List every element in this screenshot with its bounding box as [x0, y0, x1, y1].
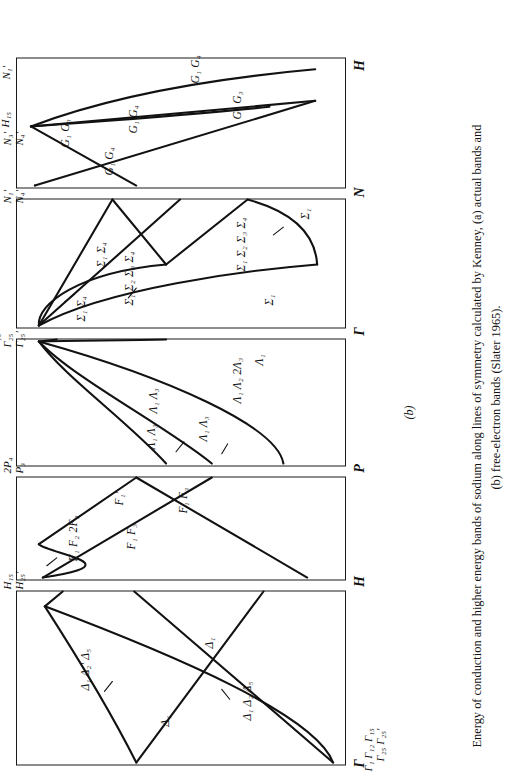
panel-delta: Δ₁ Δ₂ Δ₅ Δ₁ Δ₁ Δ₁ Δ₂' Δ₅ [16, 590, 346, 765]
levels-gamma-bottom-row1: Γ₁ Γ₁₂ Γ₁₅ [362, 728, 374, 771]
caption-line-1: Energy of conduction and higher energy b… [470, 124, 484, 747]
axis-letter-n: N [352, 187, 368, 197]
panel-g: G₁ G₄ G₁ G₃ G₁ G₄ G₁ G₃ G₁ G₄ [16, 57, 346, 188]
levels-h-topright-row2: H₁₅ H₂₅' [0, 29, 1, 65]
label-sig-14-b: Σ₁ Σ₄ [95, 241, 107, 267]
axis-letter-h-2: H [352, 60, 368, 71]
curve-sig-2 [39, 199, 180, 325]
label-lam-1: Λ₁ [253, 354, 265, 365]
curve-sig-5 [112, 199, 166, 264]
curve-delta-4 [136, 591, 263, 762]
leader-lam-b [222, 443, 228, 453]
label-g-13-b: G₁ G₃ [231, 91, 243, 119]
label-f-13-lower: F₁ F₃ [177, 487, 189, 513]
levels-n-right: N₁ N₁' [0, 65, 13, 79]
levels-n-right-row2: N₁' [0, 65, 12, 79]
levels-n-mid-row3: N₃' [1, 131, 13, 145]
panel-f: F₁ F₂ 2F₃ F₁ F₃ F₁ F₃ F₁' [16, 476, 346, 580]
label-g-14-c: G₁ G₄ [189, 55, 201, 83]
levels-h-left-row4: H₂₅' [13, 571, 25, 589]
label-sig-multi-a: Σ₁ Σ₂ Σ₃ Σ₄ [123, 251, 135, 305]
leader-sig-a [65, 294, 75, 302]
subfigure-tag: (b) [402, 405, 417, 419]
curve-g-2 [31, 126, 136, 185]
leader-delta-upper [104, 681, 112, 691]
levels-gamma-mid-row4: Γ₂₅ [1, 331, 13, 347]
axis-letter-row: Γ H P Γ N H [352, 65, 374, 765]
curve-f-3 [136, 477, 307, 577]
label-f-1-prime: F₁' [113, 491, 125, 505]
curve-delta-3 [45, 591, 63, 606]
curve-g-5 [31, 69, 315, 126]
levels-n-left-row4: N₄' [13, 189, 25, 203]
levels-gamma-bottom: Γ₁ Γ₁₂ Γ₁₅ Γ₂₅ Γ₂₅' [362, 728, 387, 771]
label-g-13-a: G₁ G₃ [59, 119, 71, 147]
levels-h-left: H₁ H₂' H₁₅ H₂₅' [0, 571, 25, 589]
levels-n-mid: N₁ N₂' N₃' N₄' [0, 131, 25, 145]
levels-gamma-mid-row5: Γ₂₅' [13, 331, 25, 347]
levels-p-left-row3: 2P₄ [1, 457, 13, 473]
figure-stage: Δ₁ Δ₂ Δ₅ Δ₁ Δ₁ Δ₁ Δ₂' Δ₅ F₁ F₂ 2F₃ F₁ F₃… [0, 0, 508, 783]
panel-delta-curves [17, 591, 345, 764]
levels-p-left: P₁ P₃ 2P₄ P₃ [0, 457, 25, 473]
label-f-triple: F₁ F₂ 2F₃ [67, 515, 79, 561]
label-sig-1-b: Σ₁ [299, 208, 311, 219]
label-g-14-b: G₁ G₄ [127, 105, 139, 133]
label-lam-13-c: Λ₁ Λ₃ [147, 387, 159, 413]
panel-sigma-curves [17, 199, 345, 327]
levels-n-mid-row4: N₄' [13, 131, 25, 145]
leader-lam-a [176, 441, 184, 451]
curve-delta-2 [134, 591, 333, 762]
curve-lam-2 [39, 341, 212, 463]
leader-delta-lower [222, 689, 230, 699]
levels-p-left-row4: P₃ [13, 457, 25, 473]
levels-h-mid: H H₁₂ H₁₅ [0, 111, 11, 127]
panel-lambda-curves [17, 339, 345, 465]
label-sig-14-a: Σ₁ Σ₄ [75, 295, 87, 321]
label-delta-lower-pair: Δ₁ Δ₂ Δ₅ [241, 681, 253, 720]
axis-letter-p: P [352, 464, 368, 473]
label-sig-multi-b: Σ₁ Σ₂ Σ₃ Σ₄ [235, 217, 247, 271]
label-g-14-a: G₁ G₄ [103, 147, 115, 175]
label-lam-multi: Λ₁ Λ₂ 2Λ₃ [231, 357, 243, 403]
curve-lam-5 [39, 339, 166, 341]
panel-sigma: Σ₁ Σ₄ Σ₁ Σ₂ Σ₃ Σ₄ Σ₁ Σ₄ Σ₁ Σ₂ Σ₃ Σ₄ Σ₁ Σ… [16, 198, 346, 328]
label-f-13-upper: F₁ F₃ [125, 523, 137, 549]
levels-gamma-mid: Γ₁ Γ₁₂ Γ₁₅ Γ₂₅ Γ₂₅' [0, 331, 26, 347]
levels-h-left-row3: H₁₅ [1, 571, 13, 589]
label-lam-13-b: Λ₁ Λ₃ [197, 415, 209, 441]
band-structure-figure: Δ₁ Δ₂ Δ₅ Δ₁ Δ₁ Δ₁ Δ₂' Δ₅ F₁ F₂ 2F₃ F₁ F₃… [16, 65, 436, 765]
label-sig-1-a: Σ₁ [263, 294, 275, 305]
axis-letter-gamma-mid: Γ [352, 327, 368, 335]
panel-lambda: Λ₁ Λ₃ Λ₁ Λ₃ Λ₁ Λ₃ Λ₁ Λ₂ 2Λ₃ Λ₁ [16, 338, 346, 466]
axis-letter-h-1: H [352, 576, 368, 587]
curve-lam-1 [39, 341, 284, 463]
label-delta-upper-pair: Δ₁ Δ₂' Δ₅ [79, 648, 91, 690]
leader-sig-c [273, 227, 283, 235]
leader-f-upper [47, 557, 57, 565]
panel-row: Δ₁ Δ₂ Δ₅ Δ₁ Δ₁ Δ₁ Δ₂' Δ₅ F₁ F₂ 2F₃ F₁ F₃… [16, 65, 346, 765]
curve-f-4 [39, 477, 136, 544]
levels-n-left: N₁ N₄ N₁' N₄' [0, 189, 25, 203]
levels-n-left-row3: N₁' [1, 189, 13, 203]
levels-h-topright: H₁ H₂' H₁₅ H₂₅' [0, 29, 1, 65]
label-delta-1-left: Δ₁ [159, 715, 171, 726]
levels-h-mid-row3: H₁₅ [0, 111, 11, 127]
label-lam-13-a: Λ₁ Λ₃ [145, 423, 157, 449]
levels-gamma-bottom-row2: Γ₂₅ Γ₂₅' [374, 728, 386, 761]
caption-line-2: (b) free-electron bands (Slater 1965). [487, 47, 506, 747]
label-delta-1-right: Δ₁ [203, 637, 215, 648]
figure-caption: Energy of conduction and higher energy b… [468, 47, 505, 747]
